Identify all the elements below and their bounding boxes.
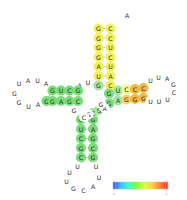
nucleotide: G (122, 95, 131, 104)
nucleotide: G (94, 53, 103, 62)
nucleotide: U (92, 162, 101, 171)
nucleotide: C (131, 85, 140, 94)
nucleotide: C (122, 85, 131, 94)
nucleotide-marker (79, 186, 88, 195)
nucleotide-marker (94, 34, 103, 43)
nucleotide-marker (114, 86, 123, 95)
nucleotide-marker (89, 125, 98, 134)
nucleotide-marker (131, 95, 140, 104)
nucleotide-marker (73, 162, 82, 171)
nucleotide-marker (139, 84, 148, 93)
nucleotide-marker (15, 79, 24, 88)
nucleotide: C (79, 186, 88, 195)
nucleotide-marker (84, 78, 93, 87)
nucleotide: U (163, 95, 172, 104)
nucleotide-marker (57, 97, 66, 106)
nucleotide: G (89, 134, 98, 143)
nucleotide-marker (95, 173, 104, 182)
nucleotide: C (65, 86, 74, 95)
nucleotide-marker (106, 24, 115, 33)
nucleotide: U (77, 125, 86, 134)
nucleotide: G (94, 24, 103, 33)
nucleotide: U (106, 43, 115, 52)
nucleotide-marker (106, 72, 115, 81)
nucleotide-marker (89, 144, 98, 153)
nucleotide: G (131, 95, 140, 104)
nucleotide: A (42, 79, 51, 88)
nucleotide: A (89, 125, 98, 134)
nucleotide: A (114, 96, 123, 105)
nucleotide: G (94, 34, 103, 43)
nucleotide-marker (154, 73, 163, 82)
nucleotide-marker (70, 106, 79, 115)
nucleotide: C (106, 34, 115, 43)
colorbar-min-label: 0 (113, 192, 115, 196)
colorbar-max-label: 1 (165, 192, 167, 196)
nucleotide: U (65, 168, 74, 177)
nucleotide-marker (169, 80, 178, 89)
nucleotide-marker (123, 11, 132, 20)
nucleotide-marker (131, 85, 140, 94)
nucleotide: C (77, 134, 86, 143)
nucleotide: G (48, 86, 57, 95)
nucleotide-marker (10, 89, 19, 98)
nucleotide: G (74, 86, 83, 95)
nucleotide-marker (146, 97, 155, 106)
nucleotide: A (57, 97, 66, 106)
nucleotide: G (94, 43, 103, 52)
nucleotide: U (24, 102, 33, 111)
nucleotide-marker (106, 43, 115, 52)
nucleotide-marker (65, 97, 74, 106)
nucleotide-marker (106, 62, 115, 71)
nucleotide: G (70, 106, 79, 115)
nucleotide-marker (65, 168, 74, 177)
nucleotide: A (123, 11, 132, 20)
nucleotide-marker (69, 184, 78, 193)
nucleotide: A (94, 62, 103, 71)
nucleotide-marker (77, 153, 86, 162)
nucleotide-marker (77, 144, 86, 153)
nucleotide: U (95, 173, 104, 182)
nucleotide-marker (94, 43, 103, 52)
nucleotide-marker (92, 162, 101, 171)
nucleotide-marker (155, 97, 164, 106)
nucleotide-marker (106, 53, 115, 62)
nucleotide-marker (122, 95, 131, 104)
nucleotide: U (33, 76, 42, 85)
nucleotide: U (155, 97, 164, 106)
nucleotide-marker (74, 97, 83, 106)
nucleotide-marker (94, 81, 103, 90)
nucleotide: C (106, 53, 115, 62)
nucleotide: A (24, 76, 33, 85)
nucleotide: G (105, 89, 114, 98)
nucleotide-marker (15, 98, 24, 107)
nucleotide-marker (48, 97, 57, 106)
nucleotide: A (106, 72, 115, 81)
nucleotide: C (74, 97, 83, 106)
rna-secondary-structure-svg: ACCUCUACGGGGAUGUAUAUAGGUAGGUCGGAGCGGUCCC… (0, 0, 187, 200)
nucleotide-marker (24, 102, 33, 111)
nucleotide: C (80, 113, 89, 122)
nucleotide-marker (33, 76, 42, 85)
nucleotide-marker (94, 53, 103, 62)
nucleotide-marker (106, 34, 115, 43)
nucleotide: U (62, 177, 71, 186)
nucleotide-marker (94, 62, 103, 71)
nucleotide-marker (65, 86, 74, 95)
nucleotide: C (89, 144, 98, 153)
nucleotide: U (114, 86, 123, 95)
nucleotide: U (94, 72, 103, 81)
nucleotide: U (146, 97, 155, 106)
nucleotide-marker (34, 100, 43, 109)
nucleotide-marker (74, 86, 83, 95)
nucleotide: A (34, 100, 43, 109)
nucleotide: G (10, 89, 19, 98)
nucleotide: A (89, 182, 98, 191)
nucleotide-marker (89, 153, 98, 162)
nucleotide-marker (42, 79, 51, 88)
nucleotide-marker (94, 24, 103, 33)
nucleotide-layer: ACCUCUACGGGGAUGUAUAUAGGUAGGUCGGAGCGGUCCC… (10, 11, 178, 195)
nucleotide: U (15, 79, 24, 88)
nucleotide: C (77, 153, 86, 162)
nucleotide-marker (77, 134, 86, 143)
